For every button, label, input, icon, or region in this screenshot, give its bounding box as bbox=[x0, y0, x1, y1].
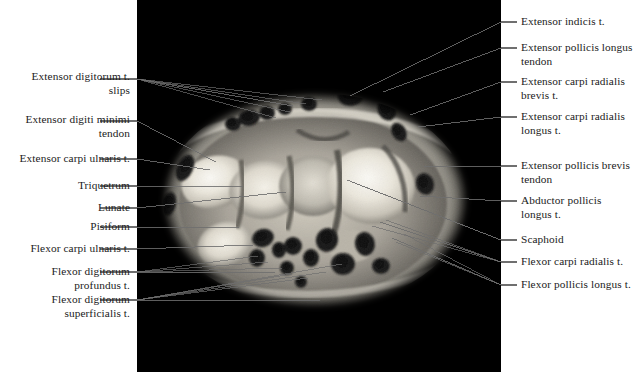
label-scaphoid: Scaphoid bbox=[521, 233, 564, 247]
label-triquetrum: Triquetrum bbox=[78, 179, 130, 193]
label-extensor-indicis: Extensor indicis t. bbox=[521, 15, 605, 29]
label-extensor-digiti-minimi-tendon: Extensor digiti minimi tendon bbox=[26, 113, 131, 140]
wrist-mri-panel bbox=[137, 0, 501, 372]
label-flexor-carpi-radialis: Flexor carpi radialis t. bbox=[521, 255, 623, 269]
label-flexor-digitorum-superficialis: Flexor digitorum superficialis t. bbox=[52, 293, 130, 320]
label-extensor-carpi-radialis-longus: Extensor carpi radialis longus t. bbox=[521, 110, 625, 137]
label-extensor-digitorum-slips: Extensor digitorum t. slips bbox=[32, 70, 130, 97]
label-flexor-pollicis-longus: Flexor pollicis longus t. bbox=[521, 278, 631, 292]
label-extensor-pollicis-brevis-tendon: Extensor pollicis brevis tendon bbox=[521, 159, 630, 186]
label-extensor-carpi-radialis-brevis: Extensor carpi radialis brevis t. bbox=[521, 75, 625, 102]
label-flexor-carpi-ulnaris: Flexor carpi ulnaris t. bbox=[30, 242, 130, 256]
label-extensor-pollicis-longus-tendon: Extensor pollicis longus tendon bbox=[521, 41, 633, 68]
anatomy-figure: Extensor digitorum t. slipsExtensor digi… bbox=[0, 0, 641, 385]
label-lunate: Lunate bbox=[98, 201, 130, 215]
label-flexor-digitorum-profundus: Flexor digitorum profundus t. bbox=[52, 265, 130, 292]
label-extensor-carpi-ulnaris: Extensor carpi ulnaris t. bbox=[20, 152, 130, 166]
label-pisiform: Pisiform bbox=[90, 220, 130, 234]
label-abductor-pollicis-longus: Abductor pollicis longus t. bbox=[521, 194, 601, 221]
wrist-mri-axial-section bbox=[137, 0, 501, 372]
